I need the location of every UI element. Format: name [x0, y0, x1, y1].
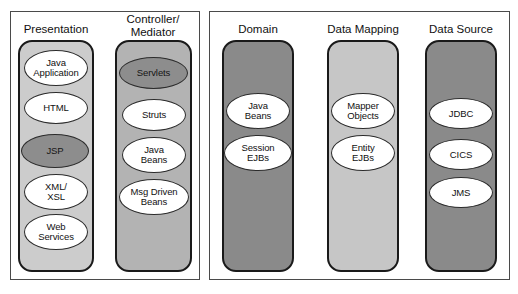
node-html[interactable]: HTML: [24, 92, 88, 124]
node-label-jdbc: JDBC: [449, 109, 473, 119]
column-label-controller-mediator: Controller/ Mediator: [113, 13, 193, 38]
node-xml-xsl[interactable]: XML/ XSL: [24, 174, 88, 210]
node-mapper-objects[interactable]: Mapper Objects: [331, 93, 395, 129]
column-label-data-mapping: Data Mapping: [326, 23, 400, 36]
node-label-html: HTML: [43, 103, 68, 113]
node-label-cics: CICS: [450, 150, 472, 160]
node-session-ejbs[interactable]: Session EJBs: [224, 135, 292, 171]
node-java-beans-domain[interactable]: Java Beans: [226, 93, 290, 129]
node-label-servlets: Servlets: [137, 68, 171, 78]
node-label-java-beans-controller: Java Beans: [141, 145, 167, 165]
node-java-application[interactable]: Java Application: [24, 50, 88, 86]
diagram-canvas: PresentationJava ApplicationHTMLJSPXML/ …: [0, 0, 518, 294]
node-jdbc[interactable]: JDBC: [429, 98, 493, 129]
node-label-java-beans-domain: Java Beans: [245, 101, 271, 121]
node-msg-driven-beans[interactable]: Msg Driven Beans: [119, 179, 189, 215]
node-label-jsp: JSP: [46, 146, 63, 156]
column-label-domain: Domain: [222, 23, 294, 36]
node-label-jms: JMS: [452, 188, 471, 198]
node-label-mapper-objects: Mapper Objects: [347, 101, 379, 121]
node-web-services[interactable]: Web Services: [24, 214, 88, 250]
node-cics[interactable]: CICS: [429, 139, 493, 170]
column-label-data-source: Data Source: [424, 23, 498, 36]
node-struts[interactable]: Struts: [122, 99, 186, 131]
node-jsp[interactable]: JSP: [21, 134, 89, 168]
column-label-presentation: Presentation: [18, 23, 94, 36]
node-java-beans-controller[interactable]: Java Beans: [122, 137, 186, 173]
node-label-web-services: Web Services: [38, 222, 74, 242]
node-entity-ejbs[interactable]: Entity EJBs: [331, 135, 395, 171]
node-label-session-ejbs: Session EJBs: [241, 143, 274, 163]
node-jms[interactable]: JMS: [429, 177, 493, 208]
node-label-msg-driven-beans: Msg Driven Beans: [130, 187, 177, 207]
node-label-struts: Struts: [142, 110, 166, 120]
node-servlets[interactable]: Servlets: [119, 57, 188, 89]
node-label-java-application: Java Application: [33, 58, 78, 78]
node-label-entity-ejbs: Entity EJBs: [351, 143, 374, 163]
node-label-xml-xsl: XML/ XSL: [45, 182, 67, 202]
